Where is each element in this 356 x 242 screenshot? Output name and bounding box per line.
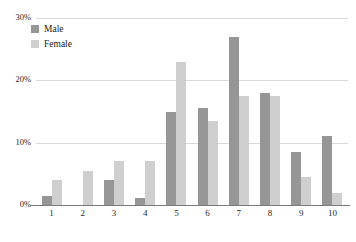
x-axis-tick-label: 9 <box>286 208 317 218</box>
bar-female-6 <box>208 121 218 205</box>
chart-legend: Male Female <box>31 22 72 52</box>
bar-female-3 <box>114 161 124 205</box>
bar-group <box>161 18 192 205</box>
y-axis-tick-label: 30% <box>0 13 31 22</box>
bar-female-10 <box>332 193 342 205</box>
legend-label-female: Female <box>44 39 72 49</box>
legend-swatch-male-icon <box>31 25 39 33</box>
x-axis-tick-label: 10 <box>317 208 348 218</box>
bar-female-7 <box>239 96 249 205</box>
legend-item-female: Female <box>31 37 72 50</box>
x-axis-tick-label: 6 <box>192 208 223 218</box>
bar-group <box>130 18 161 205</box>
bar-group <box>254 18 285 205</box>
bar-group <box>317 18 348 205</box>
y-axis-tick-label: 0% <box>0 200 31 209</box>
bar-groups <box>36 18 348 205</box>
legend-item-male: Male <box>31 22 72 35</box>
bar-male-10 <box>322 136 332 205</box>
bar-male-1 <box>42 196 52 205</box>
grouped-bar-chart: 0%10%20%30% 12345678910 Male Female <box>0 0 356 242</box>
y-axis-tick-label: 10% <box>0 138 31 147</box>
legend-label-male: Male <box>44 24 64 34</box>
x-axis-tick-label: 3 <box>98 208 129 218</box>
bar-male-7 <box>229 37 239 205</box>
bar-male-4 <box>135 198 145 205</box>
bar-female-8 <box>270 96 280 205</box>
bar-female-2 <box>83 171 93 205</box>
x-axis-tick-label: 5 <box>161 208 192 218</box>
x-axis-tick-labels: 12345678910 <box>36 208 348 218</box>
bar-male-3 <box>104 180 114 205</box>
x-axis-tick-label: 8 <box>254 208 285 218</box>
bar-female-4 <box>145 161 155 205</box>
bar-male-6 <box>198 108 208 205</box>
x-axis-tick-label: 4 <box>130 208 161 218</box>
bar-male-9 <box>291 152 301 205</box>
x-axis-tick-label: 1 <box>36 208 67 218</box>
bar-group <box>192 18 223 205</box>
bar-male-5 <box>166 112 176 206</box>
bar-female-5 <box>176 62 186 205</box>
x-axis-line <box>30 205 350 206</box>
y-axis-tick-label: 20% <box>0 75 31 84</box>
bar-male-8 <box>260 93 270 205</box>
bar-group <box>98 18 129 205</box>
bar-female-1 <box>52 180 62 205</box>
legend-swatch-female-icon <box>31 40 39 48</box>
bar-group <box>223 18 254 205</box>
x-axis-tick-label: 7 <box>223 208 254 218</box>
bar-female-9 <box>301 177 311 205</box>
bar-group <box>286 18 317 205</box>
x-axis-tick-label: 2 <box>67 208 98 218</box>
